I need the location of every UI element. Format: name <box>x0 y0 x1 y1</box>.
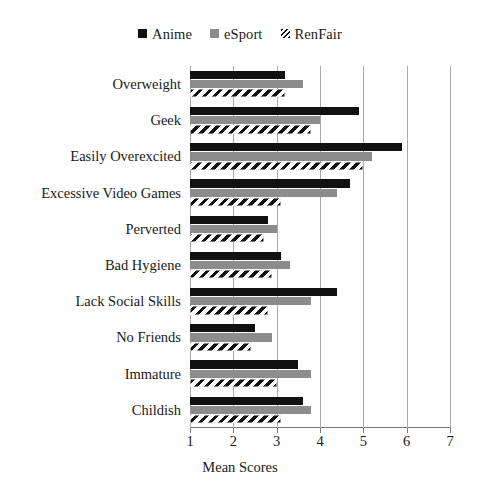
bar-group: Easily Overexcited <box>190 138 450 174</box>
bar-renfair <box>190 270 272 278</box>
horizontal-bar-chart: Anime eSport RenFair OverweightGeekEasil… <box>0 0 480 502</box>
x-tick-label-2: 2 <box>230 434 237 449</box>
bar-renfair <box>190 125 311 133</box>
bar-renfair <box>190 234 264 242</box>
bar-esport <box>190 225 277 233</box>
bar-esport <box>190 370 311 378</box>
bar-group: Bad Hygiene <box>190 247 450 283</box>
category-label: Immature <box>125 366 181 381</box>
bar-anime <box>190 288 337 296</box>
bar-anime <box>190 179 350 187</box>
bar-group: Childish <box>190 392 450 428</box>
category-label: Perverted <box>125 222 181 237</box>
bar-esport <box>190 80 303 88</box>
bar-anime <box>190 107 359 115</box>
bar-renfair <box>190 162 363 170</box>
category-label: No Friends <box>116 330 181 345</box>
bar-anime <box>190 71 285 79</box>
bar-group: Perverted <box>190 211 450 247</box>
bar-esport <box>190 116 320 124</box>
bar-renfair <box>190 89 285 97</box>
category-label: Lack Social Skills <box>75 294 181 309</box>
bar-esport <box>190 297 311 305</box>
bar-anime <box>190 143 402 151</box>
bar-renfair <box>190 343 251 351</box>
bar-anime <box>190 252 281 260</box>
bar-group: Geek <box>190 102 450 138</box>
x-tick-label-3: 3 <box>273 434 280 449</box>
bar-esport <box>190 406 311 414</box>
bar-renfair <box>190 379 277 387</box>
bar-group: Overweight <box>190 66 450 102</box>
x-axis-title: Mean Scores <box>0 459 480 476</box>
plot-area: OverweightGeekEasily OverexcitedExcessiv… <box>190 66 450 428</box>
bar-esport <box>190 261 290 269</box>
x-tick-label-7: 7 <box>446 434 453 449</box>
bar-renfair <box>190 415 281 423</box>
x-tick-label-4: 4 <box>316 434 323 449</box>
category-label: Easily Overexcited <box>70 149 181 164</box>
bar-renfair <box>190 198 281 206</box>
bar-group: No Friends <box>190 319 450 355</box>
category-label: Excessive Video Games <box>41 185 181 200</box>
category-label: Bad Hygiene <box>105 258 181 273</box>
category-label: Geek <box>150 113 181 128</box>
bar-group: Immature <box>190 356 450 392</box>
x-tick-label-1: 1 <box>186 434 193 449</box>
bar-anime <box>190 324 255 332</box>
plot-wrapper: OverweightGeekEasily OverexcitedExcessiv… <box>0 0 480 502</box>
bar-anime <box>190 216 268 224</box>
bar-esport <box>190 333 272 341</box>
bar-renfair <box>190 306 268 314</box>
category-label: Childish <box>132 403 181 418</box>
bar-esport <box>190 189 337 197</box>
gridline-7 <box>450 66 451 428</box>
x-tick-label-5: 5 <box>360 434 367 449</box>
bar-anime <box>190 397 303 405</box>
bar-group: Lack Social Skills <box>190 283 450 319</box>
x-tick-label-6: 6 <box>403 434 410 449</box>
bar-anime <box>190 360 298 368</box>
bar-group: Excessive Video Games <box>190 175 450 211</box>
bar-esport <box>190 152 372 160</box>
category-label: Overweight <box>113 77 181 92</box>
